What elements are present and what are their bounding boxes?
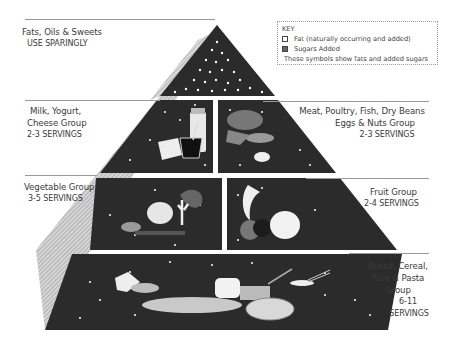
label-milk-group: Milk, Yogurt, Cheese Group 2-3 SERVINGS	[27, 105, 86, 141]
key-item-sugar: Sugars Added	[282, 44, 433, 54]
tier-fats-oils-sweets	[160, 25, 275, 96]
rule-bread	[349, 253, 429, 254]
rule-fruit	[306, 178, 429, 179]
rule-fats	[25, 19, 215, 20]
key-heading: KEY	[282, 24, 433, 34]
label-vegetable-group: Vegetable Group 3-5 SERVINGS	[24, 181, 94, 205]
rule-meat	[263, 101, 429, 102]
label-meat-group: Meat, Poultry, Fish, Dry Beans Eggs & Nu…	[310, 105, 440, 141]
label-fats-oils-sweets: Fats, Oils & Sweets USE SPARINGLY	[22, 26, 102, 50]
key-note: These symbols show fats and added sugars	[284, 54, 433, 64]
key-item-fat: Fat (naturally occurring and added)	[282, 34, 433, 44]
label-bread-group: Bread, Cereal, Rice & Pasta Group 6-11 S…	[363, 260, 433, 320]
label-fruit-group: Fruit Group 2-4 SERVINGS	[364, 186, 419, 210]
sugar-square-filled-icon	[282, 46, 288, 52]
fat-square-outline-icon	[282, 36, 288, 42]
rule-milk	[25, 100, 160, 101]
food-pyramid-diagram: Fats, Oils & Sweets USE SPARINGLY Milk, …	[0, 0, 449, 347]
key-legend: KEY Fat (naturally occurring and added) …	[277, 21, 438, 65]
rule-vegetable	[25, 175, 97, 176]
